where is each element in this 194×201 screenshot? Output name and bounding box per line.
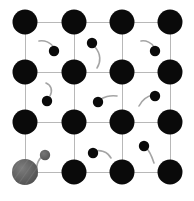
lattice-atom <box>158 60 183 85</box>
lattice-diagram-canvas <box>0 0 194 201</box>
highlighted-lattice-atom-texture <box>12 159 38 185</box>
lattice-atom <box>110 10 135 35</box>
lattice-atom <box>158 10 183 35</box>
interstitial-particle <box>150 91 160 101</box>
interstitial-particle <box>150 46 160 56</box>
interstitial-particle <box>87 38 97 48</box>
interstitial-particle <box>42 96 52 106</box>
highlighted-interstitial-particle-group <box>40 150 50 160</box>
lattice-atom <box>62 160 87 185</box>
lattice-atom <box>158 110 183 135</box>
lattice-diffusion-figure <box>0 0 194 201</box>
lattice-atom <box>110 160 135 185</box>
lattice-atom <box>110 110 135 135</box>
interstitial-particle <box>49 46 59 56</box>
lattice-atom <box>13 110 38 135</box>
lattice-atom <box>13 60 38 85</box>
interstitial-particle <box>88 148 98 158</box>
highlighted-interstitial-particle <box>40 150 50 160</box>
lattice-atom <box>62 110 87 135</box>
interstitial-particle <box>139 141 149 151</box>
lattice-atom <box>62 10 87 35</box>
interstitial-particle <box>93 97 103 107</box>
lattice-atom <box>13 10 38 35</box>
lattice-atom <box>110 60 135 85</box>
lattice-atom <box>158 160 183 185</box>
lattice-atom <box>62 60 87 85</box>
highlighted-lattice-atom-group <box>12 159 38 185</box>
